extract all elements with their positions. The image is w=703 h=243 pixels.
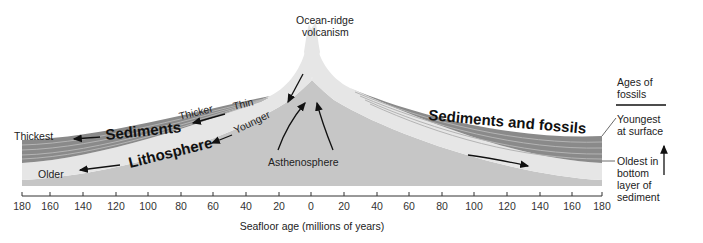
x-axis-tick-labels: 180 160 140 120 100 80 60 40 20 0 20 40 … bbox=[13, 200, 611, 212]
x-axis-label: Seafloor age (millions of years) bbox=[240, 220, 385, 232]
seafloor-spreading-diagram: Ocean-ridge volcanism Thickest Thicker T… bbox=[0, 0, 703, 243]
legend-youngest-2: at surface bbox=[617, 125, 663, 137]
legend-youngest-1: Youngest bbox=[617, 113, 660, 125]
svg-text:100: 100 bbox=[139, 200, 157, 212]
svg-text:100: 100 bbox=[465, 200, 483, 212]
svg-text:60: 60 bbox=[207, 200, 219, 212]
legend-oldest-3: layer of bbox=[617, 179, 652, 191]
legend-oldest-1: Oldest in bbox=[617, 155, 659, 167]
ridge-label-2: volcanism bbox=[302, 26, 349, 38]
svg-text:60: 60 bbox=[403, 200, 415, 212]
legend-oldest-2: bottom bbox=[617, 167, 649, 179]
svg-text:80: 80 bbox=[175, 200, 187, 212]
svg-text:160: 160 bbox=[563, 200, 581, 212]
svg-text:140: 140 bbox=[74, 200, 92, 212]
svg-text:120: 120 bbox=[107, 200, 125, 212]
legend-title-1: Ages of bbox=[617, 76, 653, 88]
x-axis-ticks bbox=[22, 192, 602, 196]
svg-text:120: 120 bbox=[498, 200, 516, 212]
legend-oldest-4: sediment bbox=[617, 191, 660, 203]
svg-text:140: 140 bbox=[531, 200, 549, 212]
svg-text:180: 180 bbox=[593, 200, 611, 212]
youngest-leader-line bbox=[602, 118, 616, 136]
svg-text:0: 0 bbox=[308, 200, 314, 212]
svg-text:40: 40 bbox=[240, 200, 252, 212]
older-label: Older bbox=[38, 168, 64, 180]
svg-text:20: 20 bbox=[273, 200, 285, 212]
ridge-label-1: Ocean-ridge bbox=[296, 14, 354, 26]
svg-text:40: 40 bbox=[371, 200, 383, 212]
asthenosphere-label: Asthenosphere bbox=[268, 156, 339, 168]
svg-text:180: 180 bbox=[13, 200, 31, 212]
svg-text:80: 80 bbox=[436, 200, 448, 212]
thickest-label: Thickest bbox=[14, 130, 53, 142]
legend-title-2: fossils bbox=[617, 88, 646, 100]
svg-text:20: 20 bbox=[338, 200, 350, 212]
svg-text:160: 160 bbox=[41, 200, 59, 212]
